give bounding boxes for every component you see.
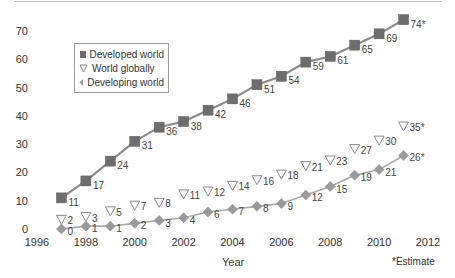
data-label: 69: [386, 33, 398, 44]
data-label: 26*: [410, 152, 425, 163]
developed-world-marker: [179, 117, 189, 127]
data-label: 2: [141, 220, 147, 231]
developed-world-marker: [374, 29, 384, 39]
world-globally-marker: [350, 145, 360, 154]
y-tick-label: 40: [16, 110, 28, 122]
developing-world-marker: [228, 204, 238, 214]
developing-world-marker: [154, 216, 164, 226]
data-label: 5: [116, 207, 122, 218]
developing-world-marker: [301, 190, 311, 200]
developed-world-marker: [105, 156, 115, 166]
x-axis-label: Year: [222, 256, 244, 268]
data-label: 27: [361, 145, 373, 156]
world-globally-marker: [399, 122, 409, 131]
world-globally-marker: [252, 176, 262, 185]
x-tick-label: 2004: [220, 236, 244, 248]
data-label: 12: [214, 187, 226, 198]
data-label: 18: [287, 170, 299, 181]
x-tick-label: 2010: [367, 236, 391, 248]
developed-world-marker: [130, 136, 140, 146]
data-label: 1: [116, 223, 122, 234]
y-tick-label: 70: [16, 25, 28, 37]
data-label: 4: [190, 215, 196, 226]
developed-world-marker: [276, 71, 286, 81]
developed-world-marker: [203, 105, 213, 115]
developed-world-marker: [399, 15, 409, 25]
developing-world-marker: [203, 207, 213, 217]
data-label: 7: [239, 206, 245, 217]
data-label: 6: [214, 209, 220, 220]
developing-world-marker: [179, 213, 189, 223]
x-tick-label: 2006: [269, 236, 293, 248]
y-tick-label: 50: [16, 82, 28, 94]
world-globally-marker: [81, 213, 91, 222]
y-tick-label: 20: [16, 166, 28, 178]
x-tick-label: 2000: [123, 236, 147, 248]
data-label: 15: [336, 184, 348, 195]
developed-world-marker: [252, 80, 262, 90]
data-label: 35*: [410, 122, 425, 133]
data-label: 46: [240, 98, 252, 109]
x-tick-label: 2002: [171, 236, 195, 248]
data-label: 8: [165, 198, 171, 209]
data-label: 11: [68, 197, 79, 208]
estimate-footnote: *Estimate: [392, 256, 435, 267]
x-tick-label: 2008: [318, 236, 342, 248]
legend-item-developed: Developed world: [79, 47, 164, 61]
world-globally-marker: [203, 187, 213, 196]
data-label: 9: [287, 201, 293, 212]
developed-world-marker: [325, 51, 335, 61]
y-tick-label: 0: [22, 223, 28, 235]
line-chart: 0102030405060701996199820002002200420062…: [0, 0, 455, 278]
world-globally-marker: [276, 170, 286, 179]
data-label: 19: [361, 172, 373, 183]
developing-world-marker: [105, 221, 115, 231]
developing-world-marker: [56, 224, 66, 234]
world-globally-marker: [325, 156, 335, 165]
developing-world-marker: [325, 182, 335, 192]
world-globally-marker: [228, 181, 238, 190]
data-label: 61: [337, 55, 349, 66]
developed-world-marker: [81, 176, 91, 186]
developing-world-marker: [252, 201, 262, 211]
legend-item-world: World globally: [79, 61, 164, 75]
legend: Developed world World globally Developin…: [74, 43, 169, 93]
world-globally-marker: [105, 207, 115, 216]
y-tick-label: 10: [16, 195, 28, 207]
developing-world-marker: [374, 165, 384, 175]
data-label: 65: [362, 44, 374, 55]
square-marker-icon: [79, 50, 86, 59]
data-label: 36: [166, 126, 178, 137]
data-label: 54: [288, 75, 300, 86]
legend-label: Developing world: [87, 77, 164, 88]
data-label: 7: [141, 201, 147, 212]
data-label: 14: [239, 181, 251, 192]
developing-world-marker: [399, 150, 409, 160]
developed-world-marker: [154, 122, 164, 132]
data-label: 1: [92, 223, 98, 234]
data-label: 0: [67, 226, 73, 237]
developing-world-marker: [276, 199, 286, 209]
data-label: 74*: [411, 19, 426, 30]
data-label: 59: [313, 61, 325, 72]
legend-label: World globally: [92, 63, 155, 74]
data-label: 30: [385, 136, 397, 147]
data-label: 11: [190, 190, 201, 201]
developed-world-marker: [228, 94, 238, 104]
data-label: 21: [312, 162, 324, 173]
world-globally-marker: [56, 215, 66, 224]
developed-world-marker: [350, 40, 360, 50]
legend-label: Developed world: [90, 49, 165, 60]
world-globally-marker: [130, 201, 140, 210]
data-label: 3: [165, 218, 171, 229]
data-label: 17: [93, 180, 105, 191]
x-tick-label: 2012: [416, 236, 440, 248]
data-label: 21: [385, 167, 397, 178]
data-label: 24: [117, 160, 129, 171]
data-label: 12: [312, 192, 324, 203]
developing-world-marker: [350, 170, 360, 180]
developing-world-line: [61, 155, 403, 229]
developed-world-marker: [301, 57, 311, 67]
data-label: 23: [336, 156, 348, 167]
world-globally-marker: [179, 190, 189, 199]
